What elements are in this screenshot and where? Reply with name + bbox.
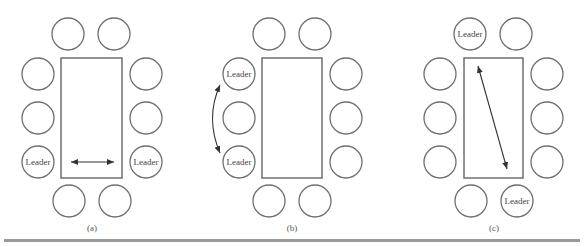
seat [531,58,563,90]
panel-c: Leader Leader (c) [424,18,563,233]
seat [330,146,362,178]
caption: (c) [489,223,499,233]
seat [330,102,362,134]
seat [330,58,362,90]
leader-label: Leader [26,157,51,167]
seat [531,102,563,134]
table [61,58,122,178]
table [262,58,322,178]
seat [531,146,563,178]
seat [424,146,456,178]
seat [299,185,331,217]
seat [253,185,285,217]
curved-double-arrow-icon [213,85,221,153]
seat [52,18,84,50]
seat [223,102,255,134]
bottom-rule [4,239,580,242]
seat [130,58,162,90]
panel-a: Leader Leader (a) [22,18,162,233]
leader-label: Leader [227,157,252,167]
seat [424,58,456,90]
seat [22,102,54,134]
caption: (b) [287,223,298,233]
seat [299,18,331,50]
seat [253,18,285,50]
seat [455,185,487,217]
seat [500,18,532,50]
seat [22,58,54,90]
table [464,58,523,178]
seat [99,185,131,217]
seat [53,185,85,217]
seat [424,102,456,134]
seat [130,102,162,134]
seating-diagram: Leader Leader (a) Leader Leader (b) [0,0,588,247]
seat [98,18,130,50]
leader-label: Leader [505,196,530,206]
leader-label: Leader [227,69,252,79]
leader-label: Leader [134,157,159,167]
panel-b: Leader Leader (b) [213,18,363,233]
leader-label: Leader [458,29,483,39]
caption: (a) [87,223,97,233]
